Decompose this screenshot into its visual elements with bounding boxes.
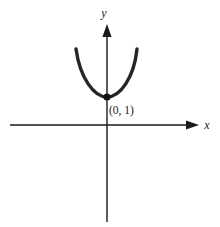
x-axis-arrow-icon — [186, 120, 199, 129]
y-axis-label: y — [100, 6, 107, 20]
coordinate-plane-svg: y x (0, 1) — [0, 0, 220, 227]
parabola-figure: y x (0, 1) — [0, 0, 220, 227]
y-axis-arrow-icon — [102, 24, 111, 37]
vertex-point-label: (0, 1) — [109, 104, 134, 117]
x-axis-label: x — [203, 118, 210, 132]
vertex-point-marker — [103, 93, 110, 100]
